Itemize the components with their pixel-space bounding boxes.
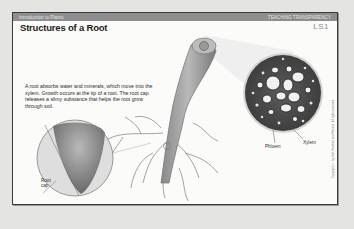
root-cap-label: Root cap	[41, 178, 57, 189]
cross-section-magnifier-icon	[243, 53, 323, 143]
description-text: A root absorbs water and minerals, which…	[25, 83, 153, 109]
copyright-notice: Copyright © by Holt, Rinehart and Winsto…	[331, 99, 335, 178]
taproot-icon	[161, 42, 216, 183]
xylem-label: Xylem	[303, 140, 316, 145]
phloem-label: Phloem	[265, 144, 281, 149]
root-branches-icon	[108, 116, 218, 201]
transparency-sheet: Introduction to Plants TEACHING TRANSPAR…	[12, 12, 338, 205]
root-illustration	[13, 13, 339, 206]
